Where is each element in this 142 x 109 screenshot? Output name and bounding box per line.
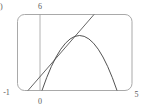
viewing-window-frame [18, 15, 133, 91]
ymax-label: 6 [38, 2, 42, 11]
part-label: c) [0, 2, 3, 11]
origin-label: 0 [38, 97, 42, 106]
parabola-curve [42, 36, 117, 91]
plot-canvas: c) 6 -1 0 5 [0, 0, 142, 109]
xmin-label: -1 [3, 88, 10, 97]
function-plot-figure: c) 6 -1 0 5 [0, 0, 142, 109]
tangent-line-curve [28, 15, 94, 91]
xmax-label: 5 [135, 90, 139, 99]
